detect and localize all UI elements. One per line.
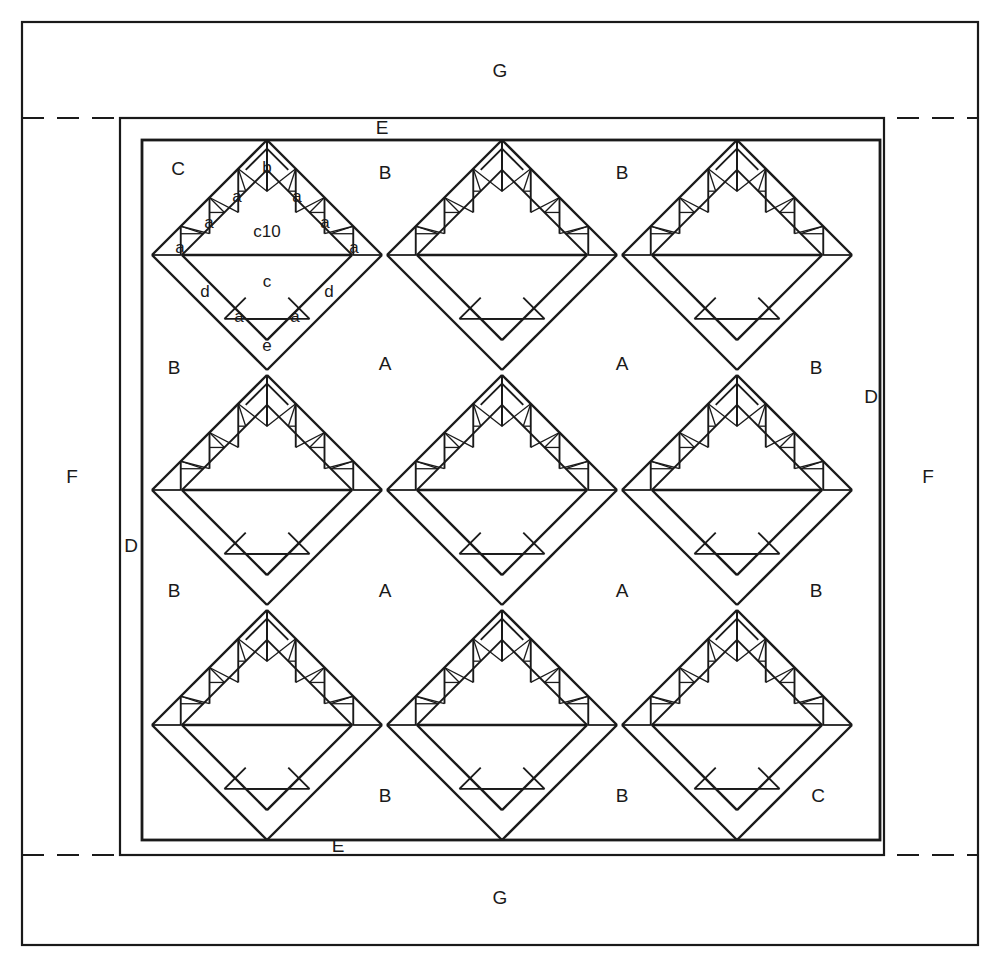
- border-label-G-bottom: G: [493, 887, 508, 908]
- field-label-B-b2: B: [616, 785, 629, 806]
- border-label-E-bottom: E: [332, 835, 345, 856]
- field-label-A-4: A: [616, 580, 629, 601]
- motif-piece-label-d-r: d: [324, 282, 333, 301]
- diagram-background: [0, 0, 999, 966]
- border-label-F-left: F: [66, 466, 78, 487]
- field-label-B-r2: B: [810, 580, 823, 601]
- quilt-diagram: bc10ceddaaaaaaaa CBBBAABBAABBBC GGFFEEDD: [0, 0, 999, 966]
- field-label-B-t2: B: [616, 162, 629, 183]
- motif-piece-label-a7: a: [234, 307, 244, 326]
- motif-piece-label-c: c: [263, 272, 272, 291]
- motif-piece-label-e: e: [262, 336, 271, 355]
- field-label-B-t1: B: [379, 162, 392, 183]
- motif-piece-label-c10: c10: [253, 222, 280, 241]
- field-label-C-tl: C: [171, 158, 185, 179]
- field-label-B-r1: B: [810, 357, 823, 378]
- motif-piece-label-a6: a: [349, 238, 359, 257]
- field-label-A-3: A: [379, 580, 392, 601]
- motif-piece-label-a3: a: [204, 213, 214, 232]
- field-label-A-2: A: [616, 353, 629, 374]
- field-label-C-br: C: [811, 785, 825, 806]
- field-label-B-l1: B: [168, 357, 181, 378]
- motif-piece-label-a1: a: [232, 187, 242, 206]
- motif-piece-label-a4: a: [320, 213, 330, 232]
- motif-piece-label-d-l: d: [200, 282, 209, 301]
- border-label-D-right: D: [864, 386, 878, 407]
- border-label-G-top: G: [493, 60, 508, 81]
- border-label-F-right: F: [922, 466, 934, 487]
- field-label-A-1: A: [379, 353, 392, 374]
- motif-piece-label-a2: a: [292, 187, 302, 206]
- motif-piece-label-a5: a: [175, 238, 185, 257]
- quilt-diagram-canvas: bc10ceddaaaaaaaa CBBBAABBAABBBC GGFFEEDD: [0, 0, 999, 966]
- motif-piece-label-a8: a: [290, 307, 300, 326]
- field-label-B-b1: B: [379, 785, 392, 806]
- motif-piece-label-b: b: [262, 158, 271, 177]
- border-label-D-left: D: [124, 535, 138, 556]
- field-label-B-l2: B: [168, 580, 181, 601]
- border-label-E-top: E: [376, 117, 389, 138]
